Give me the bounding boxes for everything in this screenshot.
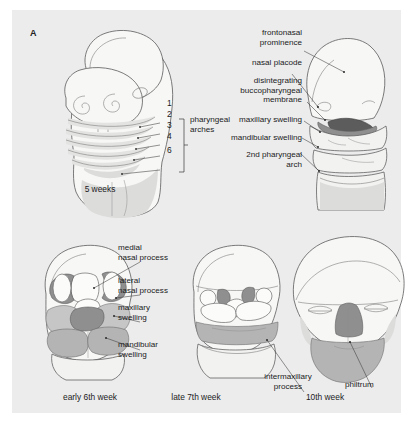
bottom-right-face-drawing bbox=[293, 237, 404, 383]
mandibular-swelling-left bbox=[47, 329, 88, 357]
bottom-middle-face-drawing bbox=[193, 245, 280, 378]
label-nasal-placode: nasal placode bbox=[210, 58, 302, 68]
label-mandibular-swelling-bottom: mandibular swelling bbox=[118, 340, 194, 359]
top-left-embryo-drawing bbox=[12, 10, 401, 413]
label-intermaxillary-process: intermaxillary process bbox=[245, 372, 331, 391]
label-lateral-nasal-process: lateral nasal process bbox=[118, 276, 194, 295]
arch-number-1: 1 bbox=[167, 98, 172, 108]
caption-early-6th-week: early 6th week bbox=[35, 392, 145, 402]
arch-number-4: 4 bbox=[167, 131, 172, 141]
label-medial-nasal-process: medial nasal process bbox=[118, 243, 194, 262]
arch-number-2: 2 bbox=[167, 109, 172, 119]
arch-number-3: 3 bbox=[167, 120, 172, 130]
top-right-frontal-drawing bbox=[307, 39, 387, 211]
label-2nd-pharyngeal-arch: 2nd pharyngeal arch bbox=[200, 150, 302, 169]
label-maxillary-swelling-top: maxillary swelling bbox=[200, 115, 302, 125]
label-disintegrating-buccopharyngeal-membrane: disintegrating buccopharyngeal membrane bbox=[200, 76, 302, 105]
arch-number-6: 6 bbox=[167, 145, 172, 155]
figure-panel: A bbox=[12, 10, 401, 413]
label-mandibular-swelling-top: mandibular swelling bbox=[196, 133, 302, 143]
caption-10th-week: 10th week bbox=[270, 392, 380, 402]
caption-late-7th-week: late 7th week bbox=[141, 392, 251, 402]
label-frontonasal-prominence: frontonasal prominence bbox=[210, 28, 302, 47]
label-maxillary-swelling-bottom: maxillary swelling bbox=[118, 303, 194, 322]
caption-5-weeks: 5 weeks bbox=[55, 184, 145, 194]
label-philtrum: philtrum bbox=[345, 380, 405, 390]
pharyngeal-arches-bracket bbox=[179, 119, 184, 172]
